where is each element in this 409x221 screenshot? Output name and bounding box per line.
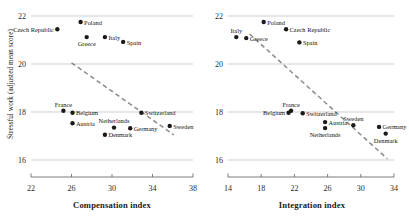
point-marker xyxy=(323,120,327,124)
data-point: Sweden xyxy=(168,123,195,130)
panel-compensation-index: 16182022Czech RepublicPolandGreeceItalyS… xyxy=(0,0,205,221)
point-marker xyxy=(84,35,88,39)
point-label: Czech Republic xyxy=(290,26,331,33)
point-marker xyxy=(103,133,107,137)
data-point: Italy xyxy=(230,27,243,39)
data-point: Spain xyxy=(297,39,318,46)
data-point: Greece xyxy=(244,35,268,42)
point-label: Netherlands xyxy=(310,131,341,138)
point-marker xyxy=(234,35,238,39)
y-tick-label: 18 xyxy=(18,108,26,117)
data-point: Germany xyxy=(377,123,407,130)
point-marker xyxy=(261,20,265,24)
point-marker xyxy=(78,20,82,24)
x-axis-title-left: Compensation index xyxy=(30,200,194,210)
x-tick-label: 26 xyxy=(68,184,76,193)
x-tick-label: 14 xyxy=(224,184,232,193)
data-point: Spain xyxy=(121,39,142,46)
point-label: Switzerland xyxy=(306,110,337,117)
y-tick-label: 16 xyxy=(18,156,26,165)
data-point: Austria xyxy=(70,120,95,127)
x-axis-title-right: Integration index xyxy=(227,200,397,210)
point-marker xyxy=(384,131,388,135)
y-tick-label: 22 xyxy=(215,12,223,21)
point-label: Greece xyxy=(250,35,268,42)
x-tick-label: 30 xyxy=(357,184,365,193)
x-tick-label: 18 xyxy=(257,184,265,193)
point-label: Poland xyxy=(84,19,103,26)
data-point: Czech Republic xyxy=(13,26,59,33)
data-point: Netherlands xyxy=(310,126,341,138)
point-marker xyxy=(377,125,381,129)
data-point: Switzerland xyxy=(301,110,338,117)
point-label: Italy xyxy=(108,34,121,41)
point-label: Italy xyxy=(230,27,243,34)
point-label: Greece xyxy=(78,40,96,47)
data-point: Poland xyxy=(261,19,285,26)
trendline xyxy=(250,34,388,159)
data-point: Switzerland xyxy=(139,109,176,116)
y-tick-label: 16 xyxy=(215,156,223,165)
point-marker xyxy=(128,126,132,130)
point-label: Netherlands xyxy=(99,117,130,124)
data-point: Greece xyxy=(78,35,96,47)
panel-integration-index: 16182022PolandCzech RepublicItalyGreeceS… xyxy=(204,0,409,221)
point-marker xyxy=(284,27,288,31)
point-marker xyxy=(70,111,74,115)
point-marker xyxy=(61,109,65,113)
point-marker xyxy=(351,123,355,127)
point-marker xyxy=(112,125,116,129)
x-tick-label: 34 xyxy=(149,184,157,193)
point-marker xyxy=(244,36,248,40)
point-marker xyxy=(139,111,143,115)
point-label: Czech Republic xyxy=(13,26,54,33)
data-point: Belgium xyxy=(70,109,98,116)
point-label: Germany xyxy=(134,125,159,132)
data-point: France xyxy=(55,101,73,113)
y-tick-label: 20 xyxy=(18,60,26,69)
point-marker xyxy=(55,27,59,31)
point-label: Germany xyxy=(383,123,408,130)
point-label: Denmark xyxy=(108,131,133,138)
point-label: Sweden xyxy=(343,115,364,122)
data-point: Italy xyxy=(103,34,121,41)
point-marker xyxy=(323,126,327,130)
point-label: Spain xyxy=(127,39,142,46)
point-label: Belgium xyxy=(76,109,98,116)
point-label: France xyxy=(282,101,300,108)
point-label: Spain xyxy=(303,39,318,46)
data-point: Poland xyxy=(78,19,102,26)
point-label: France xyxy=(55,101,73,108)
point-marker xyxy=(103,35,107,39)
y-tick-label: 22 xyxy=(18,12,26,21)
figure-scatter-panels: 16182022Czech RepublicPolandGreeceItalyS… xyxy=(0,0,409,221)
point-label: Switzerland xyxy=(145,109,176,116)
x-tick-label: 38 xyxy=(189,184,197,193)
point-marker xyxy=(301,111,305,115)
data-point: Belgium xyxy=(263,109,291,116)
data-point: Denmark xyxy=(374,131,399,143)
point-marker xyxy=(286,111,290,115)
plot-area-left: 16182022Czech RepublicPolandGreeceItalyS… xyxy=(0,0,205,221)
x-tick-label: 34 xyxy=(390,184,398,193)
point-label: Poland xyxy=(267,19,286,26)
x-tick-label: 22 xyxy=(290,184,298,193)
data-point: Denmark xyxy=(103,131,133,138)
point-marker xyxy=(168,124,172,128)
y-tick-label: 20 xyxy=(215,60,223,69)
point-label: Sweden xyxy=(173,123,194,130)
point-label: Belgium xyxy=(263,109,285,116)
y-axis-title-left-text: Stressful work (adjusted mean score) xyxy=(7,0,15,168)
data-point: Netherlands xyxy=(99,117,130,129)
point-label: Denmark xyxy=(374,137,399,144)
x-tick-label: 26 xyxy=(324,184,332,193)
data-point: Germany xyxy=(128,125,158,132)
plot-area-right: 16182022PolandCzech RepublicItalyGreeceS… xyxy=(204,0,409,221)
x-tick-label: 30 xyxy=(108,184,116,193)
point-label: Austria xyxy=(76,120,95,127)
point-marker xyxy=(121,40,125,44)
y-tick-label: 18 xyxy=(215,108,223,117)
data-point: Czech Republic xyxy=(284,26,331,33)
point-marker xyxy=(70,121,74,125)
point-marker xyxy=(297,40,301,44)
